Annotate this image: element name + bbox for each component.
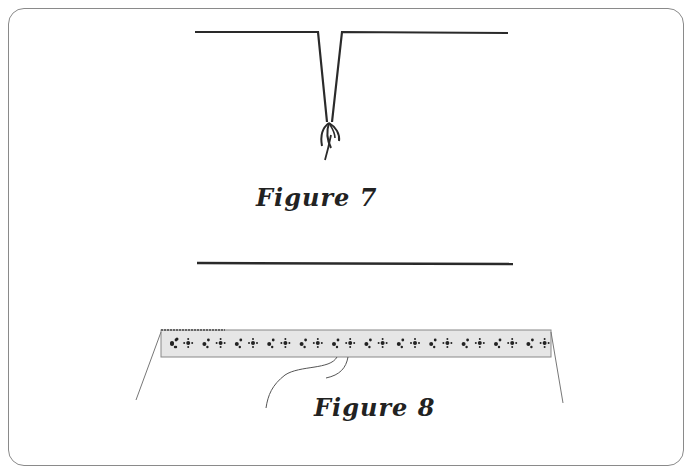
figure-7-caption: Figure 7 <box>256 183 377 212</box>
figure-8-caption: Figure 8 <box>314 393 435 422</box>
